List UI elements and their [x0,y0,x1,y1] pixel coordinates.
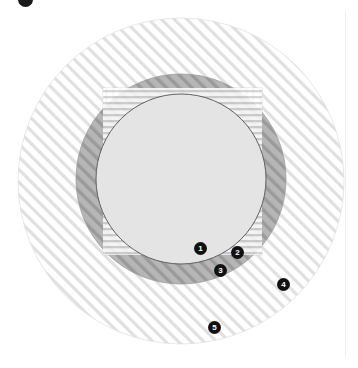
region-marker-3[interactable]: 3 [214,264,227,277]
region-marker-2[interactable]: 2 [231,246,244,259]
region-marker-4[interactable]: 4 [277,278,290,291]
region-marker-5[interactable]: 5 [208,321,221,334]
region-marker-1[interactable]: 1 [194,242,207,255]
venn-diagram-svg [0,0,358,368]
figure-root: 1 2 3 4 5 [0,0,358,368]
layer-inner-solid-circle [96,94,266,264]
